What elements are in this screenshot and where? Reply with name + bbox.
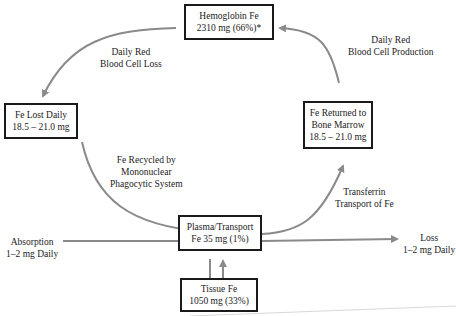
rbc-production-line2: Blood Cell Production — [348, 46, 434, 58]
recycled-line1: Fe Recycled by — [110, 154, 183, 166]
label-loss: Loss 1–2 mg Daily — [403, 232, 455, 256]
transferrin-line2: Transport of Fe — [335, 198, 394, 210]
rbc-loss-line2: Blood Cell Loss — [100, 58, 162, 70]
label-rbc-loss: Daily Red Blood Cell Loss — [100, 46, 162, 70]
arrow-plasma-to-loss — [262, 239, 397, 241]
recycled-line3: Phagocytic System — [110, 178, 183, 190]
absorption-line2: 1–2 mg Daily — [6, 248, 58, 260]
arrow-plasma-to-fe-returned — [262, 166, 343, 234]
label-transferrin: Transferrin Transport of Fe — [335, 186, 394, 210]
rbc-loss-line1: Daily Red — [100, 46, 162, 58]
tissue-title: Tissue Fe — [201, 283, 237, 295]
arrow-fe-returned-to-hemoglobin — [280, 28, 339, 83]
fe-returned-value: 18.5 – 21.0 mg — [309, 131, 366, 143]
node-fe-returned: Fe Returned to Bone Marrow 18.5 – 21.0 m… — [303, 101, 373, 149]
absorption-line1: Absorption — [6, 236, 58, 248]
loss-line1: Loss — [403, 232, 455, 244]
recycled-line2: Mononuclear — [110, 166, 183, 178]
hemoglobin-title: Hemoglobin Fe — [199, 10, 258, 22]
loss-line2: 1–2 mg Daily — [403, 244, 455, 256]
fe-returned-line1: Fe Returned to — [310, 107, 366, 119]
node-tissue-fe: Tissue Fe 1050 mg (33%) — [180, 278, 258, 312]
rbc-production-line1: Daily Red — [348, 34, 434, 46]
label-rbc-production: Daily Red Blood Cell Production — [348, 34, 434, 58]
node-fe-lost-daily: Fe Lost Daily 18.5 – 21.0 mg — [4, 103, 78, 139]
label-absorption: Absorption 1–2 mg Daily — [6, 236, 58, 260]
plasma-value: Fe 35 mg (1%) — [191, 233, 248, 245]
node-plasma-transport: Plasma/Transport Fe 35 mg (1%) — [178, 215, 262, 251]
iron-cycle-diagram: Hemoglobin Fe 2310 mg (66%)* Fe Lost Dai… — [0, 0, 456, 316]
label-recycled: Fe Recycled by Mononuclear Phagocytic Sy… — [110, 154, 183, 190]
tissue-value: 1050 mg (33%) — [189, 295, 249, 307]
transferrin-line1: Transferrin — [335, 186, 394, 198]
plasma-title: Plasma/Transport — [187, 221, 254, 233]
fe-lost-value: 18.5 – 21.0 mg — [12, 121, 69, 133]
fe-returned-line2: Bone Marrow — [311, 119, 364, 131]
fe-lost-title: Fe Lost Daily — [15, 109, 67, 121]
hemoglobin-value: 2310 mg (66%)* — [197, 22, 261, 34]
node-hemoglobin-fe: Hemoglobin Fe 2310 mg (66%)* — [184, 4, 274, 40]
